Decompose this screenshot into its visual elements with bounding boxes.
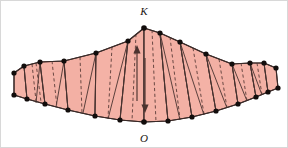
gore-diagram-figure: K O (0, 0, 288, 148)
vertex-dot-bottom (213, 108, 218, 113)
base-label: O (140, 132, 148, 144)
vertex-dot-bottom (42, 101, 47, 106)
vertex-dot-bottom (165, 118, 170, 123)
vertex-dot-top (247, 60, 252, 65)
vertex-dot-top (11, 70, 16, 75)
vertex-dot-top (21, 63, 26, 68)
vertex-dot-bottom (65, 107, 70, 112)
vertex-dot-bottom (235, 101, 240, 106)
vertex-dot-top (261, 60, 266, 65)
vertex-dot-bottom (92, 113, 97, 118)
gore-face-4 (64, 53, 96, 116)
vertex-dot-bottom (189, 114, 194, 119)
vertex-dot-top (37, 59, 42, 64)
vertex-dot-top (229, 61, 234, 66)
vertex-dot-bottom (275, 85, 280, 90)
gore-diagram-canvas: K O (0, 0, 288, 148)
vertex-dot-top (125, 38, 130, 43)
vertex-dot-top (157, 30, 162, 35)
vertex-dot-bottom (253, 94, 258, 99)
vertex-dot-top (61, 58, 66, 63)
vertex-dot-top (273, 65, 278, 70)
vertex-dot-bottom (265, 89, 270, 94)
vertex-dot-top (203, 51, 208, 56)
apex-label: K (139, 5, 148, 17)
vertex-dot-base (141, 119, 147, 125)
vertex-dot-bottom (24, 96, 29, 101)
vertex-dot-bottom (117, 117, 122, 122)
vertex-dot-apex (141, 25, 147, 31)
vertex-dot-top (177, 39, 182, 44)
vertex-dot-bottom (11, 92, 16, 97)
vertex-dot-top (93, 50, 98, 55)
